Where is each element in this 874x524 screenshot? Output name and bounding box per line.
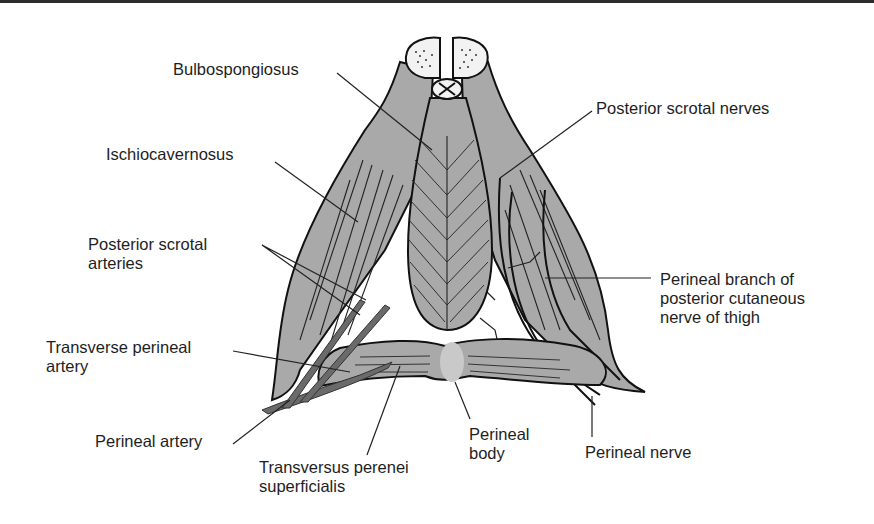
label-perineal-nerve: Perineal nerve (585, 443, 691, 462)
perineal-body-shape (440, 342, 464, 382)
urethra-icon (432, 79, 462, 99)
label-perineal-artery: Perineal artery (95, 432, 202, 451)
label-bulbospongiosus: Bulbospongiosus (173, 60, 299, 79)
label-posterior-scrotal-nerves: Posterior scrotal nerves (596, 99, 769, 118)
label-perineal-branch-posterior-cutaneous-nerve: Perineal branch of posterior cutaneous n… (660, 270, 805, 327)
crura-cross-section-icon (406, 38, 488, 78)
label-posterior-scrotal-arteries: Posterior scrotal arteries (88, 235, 207, 273)
label-ischiocavernosus: Ischiocavernosus (106, 145, 233, 164)
label-transversus-perenei-superficialis: Transversus perenei superficialis (259, 458, 409, 496)
label-perineal-body: Perineal body (469, 425, 530, 463)
label-transverse-perineal-artery: Transverse perineal artery (46, 338, 191, 376)
